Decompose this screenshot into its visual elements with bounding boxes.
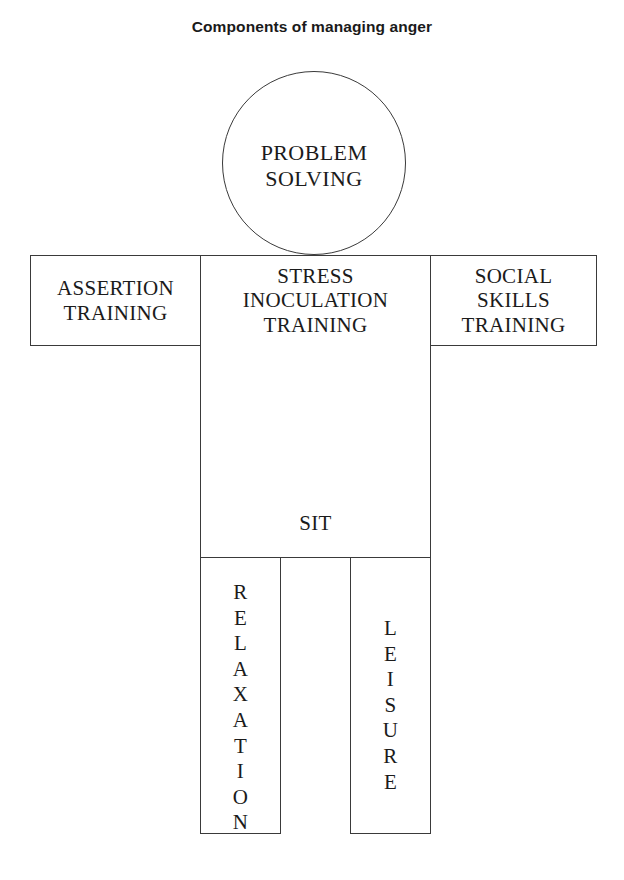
diagram-node-right-leg-leisure: LEISURE [350,557,431,834]
vertical-letter: E [384,770,397,796]
diagram-node-left-leg-relaxation: RELAXATION [200,557,281,834]
vertical-letter: L [384,616,397,642]
vertical-letter: R [383,744,397,770]
right-arm-label: SOCIAL SKILLS TRAINING [462,264,566,337]
diagram-node-torso-stress-inoculation-training: STRESS INOCULATION TRAINING SIT [200,255,431,558]
left-leg-label-vertical: RELAXATION [233,580,248,836]
diagram-canvas: Components of managing anger PROBLEM SOL… [0,0,624,880]
vertical-letter: A [233,657,248,683]
vertical-letter: X [233,682,248,708]
diagram-node-right-arm-social-skills-training: SOCIAL SKILLS TRAINING [430,255,597,346]
vertical-letter: E [384,642,397,668]
right-leg-label-vertical: LEISURE [383,616,398,795]
torso-top-label: STRESS INOCULATION TRAINING [201,264,430,337]
vertical-letter: N [233,810,248,836]
vertical-letter: R [233,580,247,606]
head-label: PROBLEM SOLVING [261,140,368,191]
vertical-letter: T [234,734,247,760]
vertical-letter: U [383,718,398,744]
vertical-letter: E [234,606,247,632]
torso-bottom-label-sit: SIT [201,511,430,535]
diagram-node-head-problem-solving: PROBLEM SOLVING [222,71,406,255]
left-arm-label: ASSERTION TRAINING [57,276,174,325]
vertical-letter: L [234,631,247,657]
vertical-letter: A [233,708,248,734]
page-title: Components of managing anger [0,18,624,36]
vertical-letter: I [237,759,244,785]
vertical-letter: S [385,693,397,719]
diagram-node-left-arm-assertion-training: ASSERTION TRAINING [30,255,201,346]
vertical-letter: O [233,785,248,811]
vertical-letter: I [387,667,394,693]
